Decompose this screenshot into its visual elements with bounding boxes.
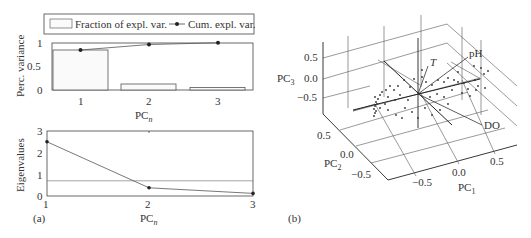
- svg-text:1: 1: [37, 37, 43, 49]
- y-ticks: 1 0.5 0: [27, 37, 43, 96]
- legend-bar-label: Fraction of expl. var.: [75, 18, 167, 30]
- svg-text:−0.5: −0.5: [412, 176, 432, 188]
- y-axis-label: Perc. variance: [14, 35, 26, 97]
- vector-label-ph: pH: [469, 47, 483, 59]
- bar-pc2: [121, 84, 176, 90]
- bar-pc3: [190, 88, 245, 91]
- pc3-axis-label: PC3: [277, 72, 294, 87]
- vector-t: [418, 66, 428, 94]
- legend-marker-icon: [175, 22, 179, 26]
- svg-text:2: 2: [37, 147, 43, 159]
- biplot-labels: 0.5 0.0 −0.5 PC3 0.5 0.0 −0.5 PC2 −0.5 0…: [277, 47, 504, 225]
- legend-bar-swatch: [50, 19, 72, 28]
- eigen-point: [45, 140, 49, 144]
- svg-text:−0.5: −0.5: [297, 91, 317, 103]
- svg-text:1: 1: [43, 198, 49, 210]
- x-ticks: 1 2 3: [78, 95, 221, 107]
- svg-text:2: 2: [145, 198, 151, 210]
- y-axis-label: Eigenvalues: [14, 138, 26, 192]
- variance-chart: Fraction of expl. var. Cum. expl. var. 1…: [14, 14, 256, 124]
- panel-label-a: (a): [33, 212, 46, 225]
- vector-label-do: DO: [484, 119, 500, 131]
- svg-text:2: 2: [146, 95, 152, 107]
- svg-text:3: 3: [250, 198, 256, 210]
- pc1-axis-label: PC1: [458, 181, 475, 196]
- svg-text:1: 1: [78, 95, 84, 107]
- figure: Fraction of expl. var. Cum. expl. var. 1…: [0, 0, 531, 238]
- panel-label-b: (b): [288, 212, 301, 225]
- cum-point: [216, 41, 220, 45]
- x-axis-label: PCn: [140, 212, 157, 227]
- x-axis-label: PCn: [135, 109, 152, 124]
- svg-text:1: 1: [37, 169, 43, 181]
- pc2-axis-label: PC2: [324, 157, 341, 172]
- legend-line-label: Cum. expl. var.: [188, 18, 256, 30]
- plot-area: [47, 131, 253, 196]
- y-ticks: 3 2 1 0: [37, 125, 43, 202]
- eigenvalue-line: [47, 142, 253, 194]
- bar-pc1: [53, 50, 108, 90]
- svg-text:0.5: 0.5: [304, 51, 318, 63]
- scatter-points: [373, 65, 489, 119]
- eigen-point: [147, 186, 151, 190]
- legend: Fraction of expl. var. Cum. expl. var.: [44, 14, 256, 34]
- eigenvalue-chart: 3 2 1 0 1 2 3 PCn Eigenvalues (a): [14, 125, 256, 227]
- svg-text:3: 3: [215, 95, 221, 107]
- svg-text:0.0: 0.0: [452, 166, 466, 178]
- svg-text:0.0: 0.0: [340, 148, 354, 160]
- svg-text:3: 3: [37, 125, 43, 137]
- cum-point: [79, 48, 83, 52]
- svg-text:0.5: 0.5: [490, 155, 504, 167]
- x-ticks: 1 2 3: [43, 198, 256, 210]
- svg-text:0.0: 0.0: [304, 72, 318, 84]
- svg-text:0.5: 0.5: [317, 129, 331, 141]
- svg-text:−0.5: −0.5: [351, 168, 371, 180]
- svg-text:0: 0: [37, 84, 43, 96]
- vector-label-t: T: [430, 56, 437, 68]
- svg-text:0.5: 0.5: [27, 60, 41, 72]
- eigen-point: [251, 192, 255, 196]
- cum-point: [147, 43, 151, 47]
